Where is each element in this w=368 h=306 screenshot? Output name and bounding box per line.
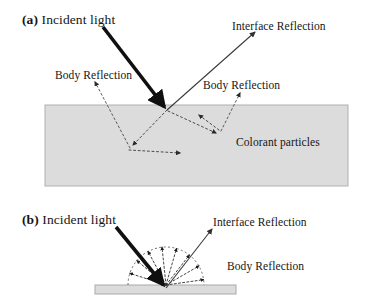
- panel-a-group: [45, 27, 357, 192]
- panel-a-colorant-particles-label: Colorant particles: [236, 136, 320, 148]
- panel-b-body-reflection-fan: [130, 247, 204, 285]
- panel-a-tag: (a): [22, 12, 38, 27]
- panel-a-interface-reflection-label: Interface Reflection: [232, 20, 326, 32]
- panel-b-surface-slab: [95, 285, 236, 294]
- panel-b-interface-reflection-label: Interface Reflection: [213, 216, 307, 228]
- figure-vector-art: [0, 0, 368, 306]
- panel-b-group: [95, 227, 236, 294]
- panel-a-incident-ray: [103, 27, 165, 107]
- panel-b-tag: (b): [22, 212, 39, 227]
- panel-b-caption: (b) Incident light: [22, 212, 116, 228]
- panel-a-caption: (a) Incident light: [22, 12, 115, 28]
- panel-a-body-reflection-right-label: Body Reflection: [203, 79, 280, 91]
- panel-b-incident-label: Incident light: [42, 212, 116, 227]
- panel-a-incident-label: Incident light: [42, 12, 116, 27]
- panel-b-interface-reflection-ray: [166, 229, 212, 288]
- dichromatic-reflection-figure: (a) Incident light Interface Reflection …: [0, 0, 368, 306]
- panel-b-body-reflection-label: Body Reflection: [227, 260, 304, 272]
- panel-b-body-reflection-arc: [128, 247, 204, 285]
- panel-a-body-reflection-left-label: Body Reflection: [55, 69, 132, 81]
- panel-a-interface-reflection-ray: [167, 32, 255, 110]
- panel-b-incident-ray: [116, 227, 164, 285]
